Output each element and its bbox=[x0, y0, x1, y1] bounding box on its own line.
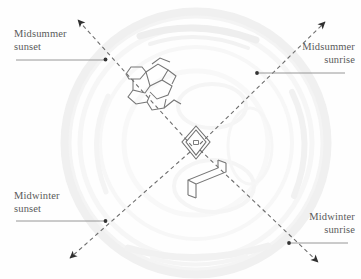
northwest-stone-structure bbox=[126, 58, 181, 110]
diagram-canvas: Midsummer sunset Midsummer sunrise Midwi… bbox=[0, 0, 361, 279]
label-midsummer-sunset: Midsummer sunset bbox=[14, 28, 67, 53]
label-midwinter-sunset-line1: Midwinter bbox=[14, 190, 60, 201]
earthwork-circle bbox=[65, 12, 327, 274]
central-stone-setting bbox=[182, 126, 210, 159]
leader-dot-midsummer-sunrise bbox=[255, 71, 259, 75]
label-midsummer-sunset-line1: Midsummer bbox=[14, 28, 67, 39]
label-midwinter-sunset-line2: sunset bbox=[14, 203, 60, 216]
leader-dot-midwinter-sunset bbox=[104, 219, 108, 223]
label-midsummer-sunrise-line1: Midsummer bbox=[302, 41, 355, 52]
label-midsummer-sunrise-line2: sunrise bbox=[293, 54, 355, 67]
label-midsummer-sunrise: Midsummer sunrise bbox=[293, 41, 355, 66]
leader-dot-midsummer-sunset bbox=[104, 58, 108, 62]
label-midwinter-sunrise: Midwinter sunrise bbox=[293, 211, 355, 236]
label-midwinter-sunrise-line2: sunrise bbox=[293, 224, 355, 237]
label-midwinter-sunrise-line1: Midwinter bbox=[309, 211, 355, 222]
southeast-stone-structure bbox=[188, 160, 226, 198]
label-midwinter-sunset: Midwinter sunset bbox=[14, 190, 60, 215]
leader-dot-midwinter-sunrise bbox=[287, 241, 291, 245]
label-midsummer-sunset-line2: sunset bbox=[14, 41, 67, 54]
